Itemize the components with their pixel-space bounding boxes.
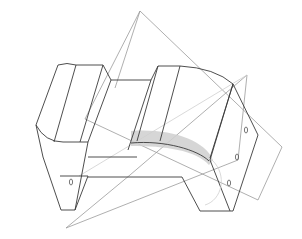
right-block-edge: [160, 66, 180, 141]
reference-plane-1[interactable]: [85, 11, 282, 200]
right-block-edge: [137, 66, 158, 141]
left-block-edge: [54, 65, 76, 142]
right-plate-edge: [210, 84, 233, 211]
plane-edge: [115, 11, 140, 88]
hole-icon: [227, 180, 230, 186]
hole-icon: [244, 127, 247, 133]
hole-icon: [69, 179, 72, 185]
left-block-edge: [80, 65, 103, 142]
plane-diagonal: [79, 75, 247, 176]
wireframe-model: [0, 0, 302, 239]
left-flange: [60, 176, 88, 210]
cad-viewport[interactable]: [0, 0, 302, 239]
